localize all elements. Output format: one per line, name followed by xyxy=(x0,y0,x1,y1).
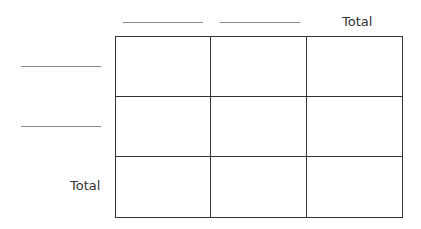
column-header-blank-2[interactable] xyxy=(220,22,300,23)
row-header-total: Total xyxy=(70,178,100,193)
table-cell[interactable] xyxy=(116,97,211,157)
column-header-total: Total xyxy=(342,14,372,29)
column-header-blank-1[interactable] xyxy=(123,22,203,23)
table-cell[interactable] xyxy=(307,97,402,157)
table-cell[interactable] xyxy=(211,97,306,157)
table-cell[interactable] xyxy=(116,157,211,217)
table-cell[interactable] xyxy=(307,157,402,217)
table-cell[interactable] xyxy=(211,37,306,97)
two-way-table-grid xyxy=(115,36,403,218)
row-header-blank-2[interactable] xyxy=(21,126,101,127)
table-cell[interactable] xyxy=(116,37,211,97)
row-header-blank-1[interactable] xyxy=(21,66,101,67)
table-cell[interactable] xyxy=(211,157,306,217)
table-cell[interactable] xyxy=(307,37,402,97)
